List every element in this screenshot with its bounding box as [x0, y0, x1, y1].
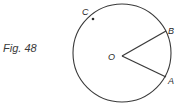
label-c: C — [82, 7, 89, 17]
label-o: O — [108, 52, 115, 62]
radius-ob — [122, 31, 166, 56]
point-c-dot — [92, 18, 95, 21]
label-a: A — [167, 76, 174, 86]
circle-diagram: O B A C — [0, 0, 185, 107]
circle — [73, 4, 171, 102]
radius-oa — [122, 56, 166, 77]
label-b: B — [168, 26, 174, 36]
